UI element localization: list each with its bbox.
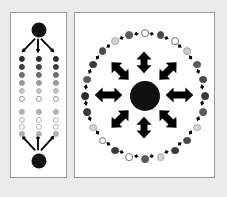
- ring-node-19: [83, 76, 91, 84]
- bottom-hub-arrow-left: [22, 136, 36, 151]
- ring-node-17: [83, 108, 91, 116]
- ring-connector-11: [149, 154, 154, 158]
- ring-connector-5: [200, 84, 204, 90]
- upper-gradient-grid-node-r4-c1: [36, 88, 42, 94]
- ring-node-14: [111, 147, 119, 155]
- lower-gradient-grid-node-r0-c2: [53, 109, 59, 115]
- ring-connector-10: [164, 150, 169, 154]
- lower-gradient-grid-node-r1-c2: [53, 117, 59, 123]
- radial-arrow-5: [111, 62, 128, 79]
- top-hub-arrow-right: [41, 39, 55, 53]
- lower-gradient-grid-node-r2-c1: [36, 124, 42, 130]
- ring-connector-3: [189, 55, 193, 59]
- ring-connector-6: [200, 100, 204, 106]
- ring-connector-2: [178, 44, 182, 48]
- ring-connector-1: [164, 36, 169, 40]
- ring-node-9: [184, 137, 192, 145]
- upper-gradient-grid-node-r1-c2: [53, 64, 59, 70]
- upper-gradient-grid-node-r3-c0: [19, 80, 25, 86]
- ring-node-21: [99, 48, 107, 56]
- figure-canvas: [0, 0, 227, 197]
- ring-node-4: [193, 61, 201, 69]
- ring-connector-20: [96, 55, 100, 59]
- ring-node-3: [184, 48, 192, 56]
- hierarchical-panel: [10, 12, 67, 178]
- ring-connector-14: [106, 142, 110, 146]
- ring-connector-21: [106, 44, 110, 48]
- lower-gradient-grid-node-r0-c1: [36, 109, 42, 115]
- upper-gradient-grid-node-r3-c1: [36, 80, 42, 86]
- ring-connector-22: [119, 36, 124, 40]
- lower-gradient-grid-node-r3-c0: [19, 131, 25, 137]
- ring-node-6: [201, 92, 209, 100]
- ring-node-20: [89, 61, 97, 69]
- ring-connector-12: [134, 154, 139, 158]
- upper-gradient-grid-node-r2-c2: [53, 72, 59, 78]
- lower-gradient-grid-node-r2-c0: [19, 124, 25, 130]
- ring-connector-16: [88, 116, 92, 121]
- ring-node-10: [171, 147, 179, 155]
- ring-connector-8: [189, 130, 193, 134]
- ring-node-8: [193, 124, 201, 132]
- upper-gradient-grid-node-r2-c0: [19, 72, 25, 78]
- ring-connector-13: [119, 150, 124, 154]
- lower-gradient-grid-node-r0-c0: [19, 109, 25, 115]
- central-hub: [130, 81, 160, 111]
- radial-arrow-6: [137, 52, 152, 74]
- lower-gradient-grid-node-r3-c2: [53, 131, 59, 137]
- ring-node-11: [157, 153, 165, 161]
- radial-arrow-7: [159, 62, 176, 79]
- ring-connector-18: [84, 84, 88, 90]
- upper-gradient-grid-node-r3-c2: [53, 80, 59, 86]
- top-hub: [32, 23, 47, 38]
- ring-node-7: [199, 108, 207, 116]
- upper-gradient-grid-node-r4-c2: [53, 88, 59, 94]
- bottom-hub-arrow-right: [41, 136, 55, 151]
- ring-node-0: [141, 29, 149, 37]
- ring-connector-19: [88, 69, 92, 74]
- upper-gradient-grid-node-r5-c2: [53, 96, 59, 102]
- ring-connector-23: [134, 32, 139, 36]
- upper-gradient-grid-node-r2-c1: [36, 72, 42, 78]
- ring-node-16: [89, 124, 97, 132]
- upper-gradient-grid-node-r0-c2: [53, 56, 59, 62]
- upper-gradient-grid-node-r4-c0: [19, 88, 25, 94]
- ring-node-23: [126, 31, 134, 39]
- ring-node-13: [126, 153, 134, 161]
- ring-connector-9: [178, 142, 182, 146]
- ring-connector-7: [196, 116, 200, 121]
- ring-node-12: [141, 155, 149, 163]
- ring-node-22: [111, 38, 119, 46]
- ring-connector-17: [84, 100, 88, 106]
- upper-gradient-grid-node-r1-c1: [36, 64, 42, 70]
- radial-arrow-0: [166, 87, 194, 102]
- radial-arrow-2: [137, 117, 152, 139]
- radial-arrow-1: [159, 110, 176, 127]
- top-hub-arrow-center: [36, 39, 40, 54]
- ring-node-15: [99, 137, 107, 145]
- top-hub-arrow-left: [22, 39, 36, 53]
- ring-node-2: [171, 38, 179, 46]
- bottom-hub: [32, 154, 47, 169]
- lower-gradient-grid-node-r2-c2: [53, 124, 59, 130]
- ring-node-1: [157, 31, 165, 39]
- upper-gradient-grid-node-r0-c1: [36, 56, 42, 62]
- upper-gradient-grid-node-r1-c0: [19, 64, 25, 70]
- ring-connector-4: [196, 69, 200, 74]
- lower-gradient-grid-node-r3-c1: [36, 131, 42, 137]
- ring-node-18: [81, 92, 89, 100]
- lower-gradient-grid-node-r1-c1: [36, 117, 42, 123]
- upper-gradient-grid-node-r5-c0: [19, 96, 25, 102]
- lower-gradient-grid-node-r1-c0: [19, 117, 25, 123]
- ring-connector-0: [149, 32, 154, 36]
- ring-connector-15: [96, 130, 100, 134]
- upper-gradient-grid-node-r0-c0: [19, 56, 25, 62]
- ring-node-5: [199, 76, 207, 84]
- radial-arrow-3: [111, 110, 128, 127]
- radial-arrow-4: [95, 87, 123, 102]
- radial-network-panel: [74, 12, 215, 178]
- upper-gradient-grid-node-r5-c1: [36, 96, 42, 102]
